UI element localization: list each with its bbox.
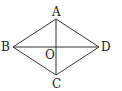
- edge-da: [56, 19, 99, 47]
- label-o: O: [45, 48, 55, 62]
- label-b: B: [1, 40, 10, 54]
- label-d: D: [101, 40, 111, 54]
- edge-ab: [13, 19, 56, 47]
- edge-cd: [56, 47, 99, 75]
- rhombus-diagram: A B D C O: [0, 0, 122, 91]
- label-c: C: [52, 77, 61, 91]
- label-a: A: [51, 5, 61, 19]
